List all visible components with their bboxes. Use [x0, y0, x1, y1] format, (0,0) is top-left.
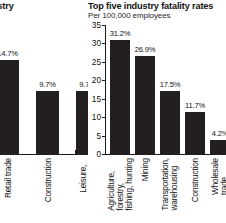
right-ytick-mark-20	[102, 80, 106, 81]
left-category-label-2: Construction	[43, 158, 52, 202]
right-ytick-label-35: 35	[92, 21, 101, 29]
chart-panel-right: Top five industry fatality rates Per 100…	[88, 0, 226, 223]
right-category-label-1: Mining	[141, 158, 150, 181]
right-ytick-10: 10	[105, 117, 109, 118]
right-ytick-15: 15	[105, 99, 109, 100]
chart-panel-left: ...ries, by industry ...t % 14.7% 9.7% 9…	[0, 0, 88, 223]
right-ytick-35: 35	[105, 25, 109, 26]
right-chart-title: Top five industry fatality rates	[88, 1, 213, 11]
left-category-3: Leisure, hospitality	[76, 156, 88, 223]
right-ytick-label-20: 20	[92, 76, 101, 84]
right-ytick-mark-0	[102, 154, 106, 155]
right-category-4: Wholesale trade	[210, 156, 226, 223]
right-ytick-mark-5	[102, 136, 106, 137]
right-ytick-label-25: 25	[92, 58, 101, 66]
left-plot-area: % 14.7% 9.7% 9.7%	[0, 26, 76, 155]
right-ytick-mark-35	[102, 25, 106, 26]
right-category-label-3: Construction	[191, 158, 200, 202]
right-ytick-label-10: 10	[92, 113, 101, 121]
left-category-label-1: Retail trade	[3, 158, 12, 198]
right-ytick-label-15: 15	[92, 95, 101, 103]
right-bar-value-2: 17.5%	[160, 81, 181, 89]
right-ytick-0: 0	[105, 154, 109, 155]
right-bar-1: 26.9%	[135, 56, 155, 155]
left-bar-1: 14.7%	[0, 60, 19, 155]
right-bar-value-1: 26.9%	[135, 46, 156, 54]
right-category-label-4: Wholesale trade	[211, 158, 226, 195]
chart-page: ...ries, by industry ...t % 14.7% 9.7% 9…	[0, 0, 226, 223]
right-bar-value-0: 31.2%	[110, 30, 131, 38]
right-bar-value-4: 4.2%	[212, 130, 226, 138]
right-category-label-4-line2: trade	[220, 158, 226, 195]
right-bar-value-3: 11.7%	[185, 102, 205, 110]
left-bar-3: 9.7%	[76, 91, 88, 155]
right-category-label-0-line3: fishing, hunting	[125, 158, 134, 211]
right-ytick-30: 30	[105, 43, 109, 44]
left-bar-value-2: 9.7%	[39, 81, 56, 89]
right-category-label-0-line2: forestry,	[116, 158, 125, 211]
right-category-label-0-line1: Agriculture,	[107, 171, 116, 211]
right-bar-0: 31.2%	[110, 40, 130, 155]
right-ytick-label-5: 5	[96, 131, 101, 139]
right-category-0: Agriculture, forestry, fishing, hunting	[110, 156, 130, 223]
right-category-3: Construction	[185, 156, 205, 223]
right-ytick-mark-15	[102, 99, 106, 100]
left-bar-value-3: 9.7%	[79, 81, 88, 89]
right-ytick-label-30: 30	[92, 39, 101, 47]
right-plot-area: 0 5 10 15 20 25	[105, 26, 226, 155]
right-category-label-2: Transportation, warehousing	[161, 158, 179, 211]
right-bar-3: 11.7%	[185, 112, 205, 155]
right-bar-4: 4.2%	[210, 140, 226, 156]
left-category-2: Construction	[36, 156, 59, 223]
left-category-label-3: Leisure, hospitality	[79, 158, 89, 193]
right-category-label-0: Agriculture, forestry, fishing, hunting	[107, 158, 134, 211]
right-category-1: Mining	[135, 156, 155, 223]
right-ytick-mark-10	[102, 117, 106, 118]
right-ytick-label-0: 0	[96, 150, 101, 158]
right-ytick-20: 20	[105, 80, 109, 81]
right-category-2: Transportation, warehousing	[160, 156, 180, 223]
right-category-label-2-line1: Transportation,	[161, 158, 170, 211]
right-category-label-2-line2: warehousing	[170, 158, 179, 211]
right-chart-subtitle: Per 100,000 employees	[88, 11, 170, 20]
right-category-label-4-line1: Wholesale	[211, 158, 220, 195]
left-category-1: Retail trade	[0, 156, 19, 223]
left-chart-title: ...ries, by industry	[0, 1, 14, 11]
right-ytick-5: 5	[105, 136, 109, 137]
left-bar-value-1: 14.7%	[0, 50, 18, 58]
left-category-label-3-line1: Leisure,	[79, 165, 88, 193]
right-bar-2: 17.5%	[160, 91, 180, 156]
left-bar-2: 9.7%	[36, 91, 59, 155]
right-ytick-mark-25	[102, 62, 106, 63]
right-ytick-mark-30	[102, 43, 106, 44]
right-ytick-25: 25	[105, 62, 109, 63]
